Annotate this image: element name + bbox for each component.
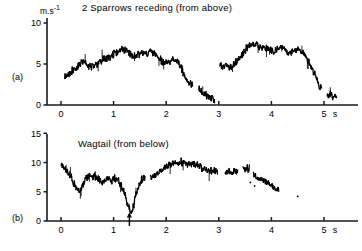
trace-sparse-fragment-two — [243, 165, 249, 172]
x-tick-label: 0 — [58, 225, 63, 235]
trace-tail-fragment — [327, 87, 336, 99]
x-tick-label: 0 — [58, 109, 63, 119]
y-unit-exponent: -1 — [54, 4, 60, 11]
trace-descent-fragment — [199, 86, 215, 103]
x-tick-label: 3 — [216, 225, 221, 235]
panel-a-sparrows: 0510012345s m.s-1 2 Sparrows receding (f… — [0, 0, 362, 125]
x-tick-label: 1 — [111, 109, 116, 119]
y-tick-label: 15 — [31, 129, 41, 139]
panel-a-plot: 0510012345s — [0, 0, 362, 125]
panel-a-letter: (a) — [12, 73, 23, 82]
panel-a-title: 2 Sparrows receding (from above) — [82, 3, 232, 13]
x-tick-label: 2 — [164, 109, 169, 119]
panel-a-y-unit-label: m.s-1 — [40, 4, 60, 15]
y-tick-label: 10 — [31, 158, 41, 168]
figure-container: 0510012345s m.s-1 2 Sparrows receding (f… — [0, 0, 362, 251]
arrow-marker — [127, 213, 132, 227]
panel-b-plot: 051015012345s — [0, 126, 362, 251]
x-unit-label: s — [333, 225, 338, 235]
x-tick-label: 4 — [269, 109, 274, 119]
y-tick-label: 5 — [36, 59, 41, 69]
x-unit-label: s — [333, 109, 338, 119]
trace-isolated-points — [249, 181, 298, 197]
x-tick-label: 1 — [111, 225, 116, 235]
y-tick-label: 0 — [36, 100, 41, 110]
trace-main-flight-trace — [61, 163, 145, 213]
panel-b-title: Wagtail (from below) — [78, 139, 169, 149]
x-tick-label: 3 — [216, 109, 221, 119]
x-tick-label: 5 — [321, 109, 326, 119]
trace-sparse-fragment-one — [225, 169, 238, 175]
trace-main-flight-trace — [65, 46, 193, 88]
trace-second-climb-trace — [150, 158, 217, 181]
panel-b-letter: (b) — [12, 214, 23, 223]
trace-second-climb-trace — [220, 42, 322, 90]
y-tick-label: 0 — [36, 216, 41, 226]
panel-b-wagtail: 051015012345s Wagtail (from below) (b) — [0, 126, 362, 251]
x-tick-label: 5 — [321, 225, 326, 235]
x-tick-label: 2 — [164, 225, 169, 235]
trace-final-descent — [254, 172, 279, 191]
y-tick-label: 10 — [31, 18, 41, 28]
x-tick-label: 4 — [269, 225, 274, 235]
y-tick-label: 5 — [36, 187, 41, 197]
